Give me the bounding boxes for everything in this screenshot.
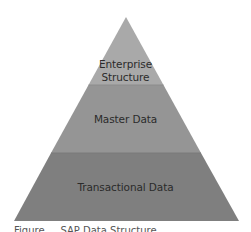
label-line: Enterprise bbox=[0, 58, 251, 71]
label-line: Transactional Data bbox=[0, 181, 251, 194]
label-master-data: Master Data bbox=[0, 113, 251, 126]
label-enterprise-structure: Enterprise Structure bbox=[0, 58, 251, 84]
label-transactional-data: Transactional Data bbox=[0, 181, 251, 194]
label-line: Master Data bbox=[0, 113, 251, 126]
label-line: Structure bbox=[0, 71, 251, 84]
figure-caption: Figure ... SAP Data Structure ... bbox=[14, 225, 169, 232]
